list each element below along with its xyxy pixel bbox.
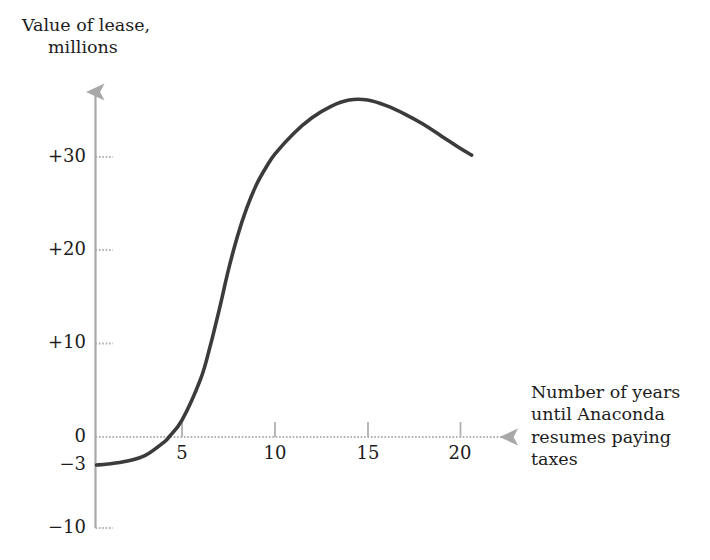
y-tick-label-10: +10 — [14, 331, 86, 352]
y-tick-label-neg3: −3 — [14, 453, 86, 474]
y-tick-label-20: +20 — [14, 238, 86, 259]
y-tick-label-neg10: −10 — [14, 516, 86, 537]
y-axis-title-line1: Value of lease, — [22, 15, 150, 35]
x-tick-label-20: 20 — [440, 442, 480, 463]
chart-plot-area — [0, 0, 710, 560]
x-axis-title-line3: resumes paying — [531, 426, 680, 448]
x-axis-title-line1: Number of years — [531, 381, 680, 403]
y-tick-label-0: 0 — [14, 425, 86, 446]
chart-figure: Value of lease,millions Number of yearsu… — [0, 0, 710, 560]
y-axis-ticks — [96, 157, 114, 528]
y-axis-title-line2: millions — [22, 36, 150, 58]
data-series-line — [97, 99, 472, 465]
x-axis-title-line4: taxes — [531, 448, 680, 470]
x-tick-label-5: 5 — [162, 442, 202, 463]
x-tick-label-15: 15 — [348, 442, 388, 463]
x-axis-title: Number of yearsuntil Anacondaresumes pay… — [531, 381, 680, 471]
y-axis-title: Value of lease,millions — [22, 14, 150, 59]
x-axis-ticks — [182, 422, 461, 437]
y-tick-label-30: +30 — [14, 145, 86, 166]
x-tick-label-10: 10 — [255, 442, 295, 463]
x-axis-title-line2: until Anaconda — [531, 403, 680, 425]
